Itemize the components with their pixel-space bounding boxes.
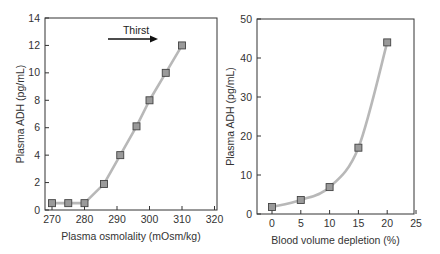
x-tick-label: 15 [353, 217, 365, 229]
plot-frame [257, 19, 414, 214]
data-point-marker [162, 69, 169, 76]
y-tick-label: 8 [34, 94, 40, 106]
y-tick-label: 2 [34, 176, 40, 188]
thirst-label: Thirst [123, 24, 149, 36]
y-axis-label: Plasma ADH (pg/mL) [224, 67, 236, 166]
x-tick-label: 20 [381, 217, 393, 229]
x-tick-label: 270 [43, 213, 61, 225]
y-tick-label: 50 [240, 13, 252, 25]
y-tick-label: 12 [28, 39, 40, 51]
y-tick-label: 10 [28, 66, 40, 78]
data-line [272, 42, 387, 207]
x-tick-label: 290 [108, 213, 126, 225]
x-axis-label: Blood volume depletion (%) [271, 234, 399, 246]
x-tick-label: 10 [324, 217, 336, 229]
data-point-marker [146, 97, 153, 104]
x-tick-label: 300 [141, 213, 159, 225]
x-tick-label: 320 [206, 213, 224, 225]
data-point-marker [81, 200, 88, 207]
osmolality-chart: 02468101214270280290300310320Plasma osmo… [14, 12, 223, 243]
x-tick-label: 25 [410, 217, 422, 229]
x-tick-label: 280 [76, 213, 94, 225]
data-point-marker [49, 200, 56, 207]
data-point-marker [179, 42, 186, 49]
x-tick-label: 5 [298, 217, 304, 229]
plot-frame [45, 18, 217, 210]
data-point-marker [297, 196, 304, 203]
data-point-marker [355, 144, 362, 151]
y-tick-label: 40 [240, 52, 252, 64]
y-tick-label: 20 [240, 130, 252, 142]
y-axis-label: Plasma ADH (pg/mL) [14, 65, 26, 164]
data-point-marker [65, 200, 72, 207]
y-tick-label: 4 [34, 149, 40, 161]
y-tick-label: 6 [34, 121, 40, 133]
x-axis-label: Plasma osmolality (mOsm/kg) [61, 230, 200, 242]
y-tick-label: 0 [34, 204, 40, 216]
arrow-right-icon [150, 36, 158, 43]
blood-volume-chart: 010203040500510152025Blood volume deplet… [224, 13, 422, 247]
y-tick-label: 0 [246, 208, 252, 220]
data-point-marker [384, 39, 391, 46]
data-point-marker [133, 123, 140, 130]
chart-figure: 02468101214270280290300310320Plasma osmo… [0, 0, 440, 254]
y-tick-label: 14 [28, 12, 40, 24]
data-point-marker [101, 180, 108, 187]
x-tick-label: 0 [269, 217, 275, 229]
x-tick-label: 310 [173, 213, 191, 225]
data-point-marker [269, 203, 276, 210]
data-point-marker [326, 184, 333, 191]
y-tick-label: 30 [240, 91, 252, 103]
data-point-marker [117, 152, 124, 159]
y-tick-label: 10 [240, 169, 252, 181]
